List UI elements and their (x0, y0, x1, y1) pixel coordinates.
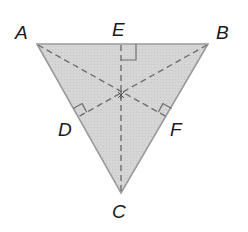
label-f: F (170, 119, 183, 140)
label-a: A (14, 22, 28, 43)
label-b: B (216, 22, 229, 43)
label-e: E (112, 19, 125, 40)
label-c: C (112, 201, 126, 222)
triangle-diagram: A E B D F C (0, 0, 248, 232)
label-d: D (58, 119, 72, 140)
